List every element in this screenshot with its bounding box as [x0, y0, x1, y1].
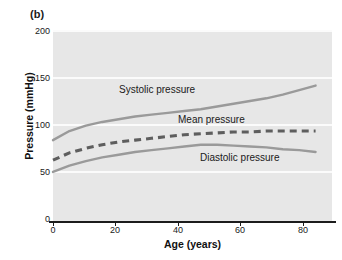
series-annotation-diastolic: Diastolic pressure — [200, 152, 279, 163]
data-curves — [0, 0, 342, 260]
series-annotation-mean: Mean pressure — [178, 114, 245, 125]
series-annotation-systolic: Systolic pressure — [119, 84, 195, 95]
figure-panel-b: (b) 200 150 100 50 0 Pressure (mmHg) 0 2… — [0, 0, 342, 260]
